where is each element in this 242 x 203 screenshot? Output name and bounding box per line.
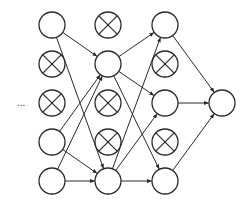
edge-c2r1-c3r0 [119,33,154,57]
dropped-neuron-node [95,129,121,155]
circle-icon [152,12,178,38]
neuron-node [152,12,178,38]
edge-c1r0-c2r1 [63,32,97,56]
edges-layer [56,32,214,181]
dropped-neuron-node [39,51,65,77]
circle-icon [39,129,65,155]
neuron-node [152,90,178,116]
circle-icon [209,90,235,116]
dropped-neuron-node [95,12,121,38]
dropped-neuron-node [95,90,121,116]
neuron-node [39,129,65,155]
circle-icon [39,12,65,38]
edge-c1r4-c2r1 [58,76,103,169]
ellipsis-label: ... [17,97,25,108]
dropped-neuron-node [152,129,178,155]
neuron-node [95,168,121,194]
edge-c2r1-c3r2 [119,71,154,95]
neural-network-diagram: ... [0,0,242,203]
neuron-node [39,168,65,194]
edge-c3r0-c4r0 [173,35,214,92]
dropped-neuron-node [152,51,178,77]
circle-icon [39,168,65,194]
network-graph [0,0,242,203]
neuron-node [95,51,121,77]
neuron-node [39,12,65,38]
edge-c1r3-c2r4 [63,149,97,173]
circle-icon [152,90,178,116]
edge-c3r4-c4r0 [173,114,214,171]
neuron-node [209,90,235,116]
circle-icon [152,168,178,194]
neuron-node [152,168,178,194]
circle-icon [95,168,121,194]
dropped-neuron-node [39,90,65,116]
circle-icon [95,51,121,77]
edge-c2r1-c3r4 [114,76,159,169]
